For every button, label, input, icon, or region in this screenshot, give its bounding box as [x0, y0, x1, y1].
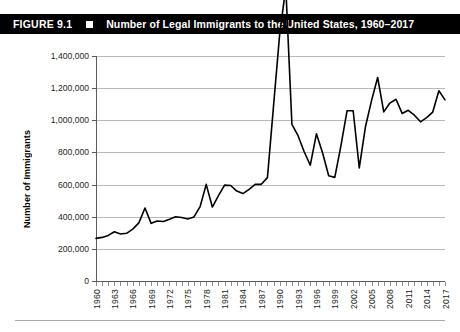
- y-axis-tick-mark: [92, 88, 96, 89]
- x-axis-tick-label: 1963: [110, 289, 120, 309]
- x-axis-tick-mark: [249, 282, 250, 286]
- x-axis-tick-mark: [365, 282, 366, 286]
- x-axis-tick-mark: [267, 282, 268, 286]
- x-axis-tick-label: 1984: [238, 289, 248, 309]
- x-axis-tick-mark: [255, 282, 256, 286]
- x-axis-tick-label: 1969: [147, 289, 157, 309]
- x-axis-tick-mark: [163, 282, 164, 286]
- x-axis-tick-label: 2002: [349, 289, 359, 309]
- x-axis-tick-mark: [408, 282, 409, 286]
- x-axis-tick-mark: [188, 282, 189, 286]
- x-axis-tick-mark: [286, 282, 287, 286]
- x-axis-tick-mark: [231, 282, 232, 286]
- x-axis-tick-label: 1993: [294, 289, 304, 309]
- x-axis-tick-mark: [133, 282, 134, 286]
- x-axis-tick-mark: [353, 282, 354, 286]
- x-axis-tick-mark: [439, 282, 440, 286]
- x-axis-tick-mark: [182, 282, 183, 286]
- x-axis-tick-label: 1990: [275, 289, 285, 309]
- y-axis-tick-label: 400,000: [58, 212, 89, 222]
- x-axis-tick-mark: [96, 282, 97, 286]
- y-axis-tick-mark: [92, 56, 96, 57]
- figure-number: FIGURE 9.1: [13, 18, 72, 30]
- x-axis-tick-mark: [157, 282, 158, 286]
- y-axis-tick-label: 0: [84, 276, 89, 286]
- x-axis-tick-mark: [218, 282, 219, 286]
- y-axis-tick-mark: [92, 217, 96, 218]
- y-axis-tick-label: 800,000: [58, 147, 89, 157]
- x-axis-tick-mark: [390, 282, 391, 286]
- x-axis-tick-mark: [316, 282, 317, 286]
- y-axis-tick-mark: [92, 185, 96, 186]
- x-axis-tick-mark: [329, 282, 330, 286]
- y-axis-tick-mark: [92, 120, 96, 121]
- x-axis-tick-label: 1978: [202, 289, 212, 309]
- y-axis-tick-label: 200,000: [58, 244, 89, 254]
- x-axis-tick-mark: [378, 282, 379, 286]
- chart-container: Number of Immigrants 1,400,0001,200,0001…: [0, 34, 460, 314]
- y-axis-tick-labels: 1,400,0001,200,0001,000,000800,000600,00…: [0, 56, 89, 281]
- footer-divider: [15, 320, 445, 321]
- y-axis-tick-label: 1,200,000: [51, 83, 89, 93]
- x-axis-tick-label: 1987: [257, 289, 267, 309]
- x-axis-tick-mark: [359, 282, 360, 286]
- x-axis-tick-mark: [127, 282, 128, 286]
- x-axis-tick-mark: [335, 282, 336, 286]
- x-axis-tick-mark: [120, 282, 121, 286]
- x-axis-tick-mark: [421, 282, 422, 286]
- x-axis-tick-mark: [206, 282, 207, 286]
- y-axis-tick-mark: [92, 249, 96, 250]
- x-axis-tick-mark: [176, 282, 177, 286]
- y-axis-tick-mark: [92, 152, 96, 153]
- x-axis-tick-label: 2005: [367, 289, 377, 309]
- x-axis-tick-mark: [261, 282, 262, 286]
- x-axis-tick-mark: [194, 282, 195, 286]
- x-axis-tick-mark: [341, 282, 342, 286]
- x-axis-tick-mark: [402, 282, 403, 286]
- x-axis-tick-mark: [445, 282, 446, 286]
- x-axis-tick-mark: [237, 282, 238, 286]
- x-axis-tick-mark: [139, 282, 140, 286]
- x-axis-tick-label: 1981: [220, 289, 230, 309]
- x-axis-tick-label: 2014: [422, 289, 432, 309]
- x-axis-tick-mark: [212, 282, 213, 286]
- x-axis-tick-mark: [310, 282, 311, 286]
- x-axis-tick-label: 1996: [312, 289, 322, 309]
- x-axis-tick-mark: [225, 282, 226, 286]
- x-axis-tick-mark: [280, 282, 281, 286]
- x-axis-tick-mark: [433, 282, 434, 286]
- x-axis-tick-label: 1972: [165, 289, 175, 309]
- x-axis-tick-mark: [145, 282, 146, 286]
- x-axis-tick-mark: [151, 282, 152, 286]
- x-axis-tick-label: 2017: [441, 289, 451, 309]
- x-axis-tick-mark: [200, 282, 201, 286]
- x-axis-tick-label: 1966: [128, 289, 138, 309]
- x-axis-tick-mark: [169, 282, 170, 286]
- x-axis-tick-label: 1999: [330, 289, 340, 309]
- x-axis-tick-mark: [102, 282, 103, 286]
- x-axis-tick-mark: [396, 282, 397, 286]
- data-line-series: [96, 56, 445, 282]
- x-axis-tick-mark: [108, 282, 109, 286]
- x-axis-tick-label: 2008: [385, 289, 395, 309]
- x-axis-tick-mark: [298, 282, 299, 286]
- figure-title-banner: FIGURE 9.1 Number of Legal Immigrants to…: [0, 14, 460, 34]
- x-axis-tick-mark: [323, 282, 324, 286]
- x-axis-tick-label: 1975: [183, 289, 193, 309]
- x-axis-tick-label: 2011: [404, 289, 414, 308]
- y-axis-tick-label: 600,000: [58, 180, 89, 190]
- x-axis-tick-mark: [243, 282, 244, 286]
- x-axis-tick-mark: [114, 282, 115, 286]
- x-axis-tick-mark: [414, 282, 415, 286]
- figure-title: Number of Legal Immigrants to the United…: [106, 18, 414, 30]
- immigrants-line: [96, 0, 445, 238]
- x-axis-tick-mark: [427, 282, 428, 286]
- x-axis-tick-mark: [274, 282, 275, 286]
- x-axis-tick-mark: [372, 282, 373, 286]
- x-axis-tick-label: 1960: [92, 289, 102, 309]
- y-axis-tick-label: 1,400,000: [51, 51, 89, 61]
- x-axis-tick-mark: [384, 282, 385, 286]
- x-axis-tick-mark: [347, 282, 348, 286]
- x-axis-tick-mark: [292, 282, 293, 286]
- x-axis-tick-mark: [304, 282, 305, 286]
